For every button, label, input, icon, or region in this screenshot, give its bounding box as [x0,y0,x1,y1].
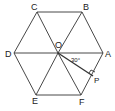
label-C: C [31,2,38,12]
label-O: O [55,40,62,50]
label-B: B [83,2,89,12]
label-D: D [5,49,12,59]
label-E: E [32,96,38,106]
segment-OE [36,53,58,95]
angle-label: 30° [71,57,81,63]
label-A: A [105,49,111,59]
label-F: F [79,97,85,107]
hexagon-diagram: C B A D E F O P 30° [0,0,115,111]
label-P: P [94,76,99,85]
